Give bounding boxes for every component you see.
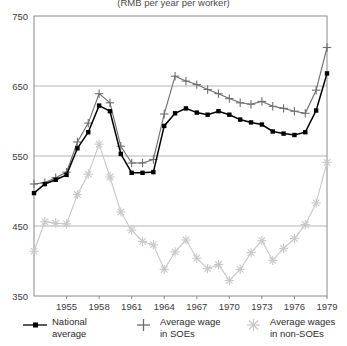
x-tick-label: 1958	[89, 301, 110, 310]
y-tick-label: 650	[12, 81, 28, 92]
x-tick-label: 1967	[186, 301, 207, 310]
asterisk-marker-icon	[240, 317, 266, 329]
chart-legend: National average Average wage in SOEs Av…	[0, 316, 347, 346]
x-tick-label: 1955	[56, 301, 77, 310]
x-axis-ticks: 195519581961196419671970197319761979	[56, 296, 338, 310]
series-average-wages-in-non-soes	[29, 140, 331, 286]
legend-label-national-average: National average	[52, 316, 87, 339]
series-average-wage-in-soes	[30, 43, 331, 188]
x-tick-label: 1961	[121, 301, 142, 310]
y-axis-ticks: 350450550650750	[12, 11, 28, 302]
square-line-marker-icon	[22, 317, 48, 329]
y-tick-label: 550	[12, 151, 28, 162]
legend-item-soe[interactable]: Average wage in SOEs	[130, 316, 221, 339]
x-tick-label: 1976	[284, 301, 305, 310]
legend-item-national-average[interactable]: National average	[22, 316, 87, 339]
x-tick-label: 1970	[219, 301, 240, 310]
x-tick-label: 1973	[251, 301, 272, 310]
series-national-average	[32, 71, 329, 195]
legend-label-soe: Average wage in SOEs	[160, 316, 221, 339]
data-series-layer	[29, 43, 331, 285]
chart-plot: 350450550650750 195519581961196419671970…	[0, 0, 347, 310]
legend-item-non-soe[interactable]: Average wages in non-SOEs	[240, 316, 335, 339]
legend-label-non-soe: Average wages in non-SOEs	[270, 316, 335, 339]
y-tick-label: 450	[12, 221, 28, 232]
y-tick-label: 750	[12, 11, 28, 22]
chart-canvas: 350450550650750 195519581961196419671970…	[0, 0, 347, 310]
y-tick-label: 350	[12, 291, 28, 302]
x-tick-label: 1964	[154, 301, 175, 310]
plus-marker-icon	[130, 317, 156, 329]
x-tick-label: 1979	[316, 301, 337, 310]
